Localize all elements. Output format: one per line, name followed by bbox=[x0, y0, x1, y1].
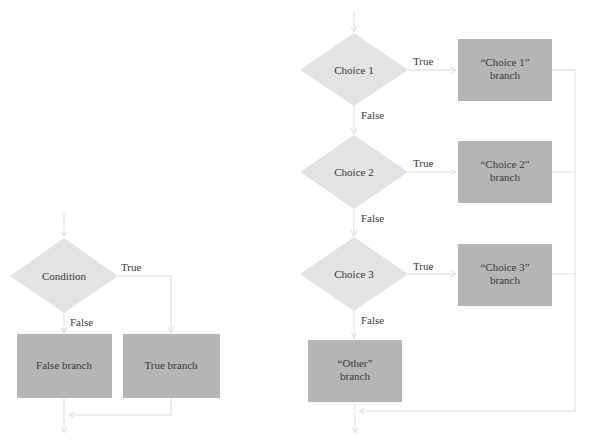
merge-connector bbox=[70, 398, 171, 415]
choice-1-false-label: False bbox=[361, 109, 384, 121]
choice-3-branch-line1: “Choice 3” bbox=[480, 261, 529, 273]
choice-1-true-label: True bbox=[413, 55, 433, 67]
multi-choice-diagram: Choice 1 True “Choice 1” branch False Ch… bbox=[300, 12, 575, 432]
choice-3-true-label: True bbox=[413, 260, 433, 272]
choice-1-label: Choice 1 bbox=[334, 64, 373, 76]
other-branch-line1: “Other” bbox=[338, 357, 373, 369]
true-label: True bbox=[121, 261, 141, 273]
false-label: False bbox=[70, 316, 93, 328]
choice-3-label: Choice 3 bbox=[334, 268, 374, 280]
if-else-diagram: Condition True False False branch True b… bbox=[10, 212, 220, 432]
choice-1-branch-line2: branch bbox=[490, 69, 520, 81]
choice-2-label: Choice 2 bbox=[334, 166, 373, 178]
false-branch-label: False branch bbox=[36, 359, 92, 371]
other-branch-line2: branch bbox=[340, 370, 370, 382]
choice-3-false-label: False bbox=[361, 314, 384, 326]
true-branch-label: True branch bbox=[144, 359, 198, 371]
condition-label: Condition bbox=[42, 270, 87, 282]
flowchart-canvas: Condition True False False branch True b… bbox=[0, 0, 590, 440]
choice-2-true-label: True bbox=[413, 157, 433, 169]
choice-3-branch-line2: branch bbox=[490, 274, 520, 286]
choice-2-branch-line1: “Choice 2” bbox=[480, 158, 529, 170]
true-connector bbox=[118, 276, 171, 332]
choice-2-false-label: False bbox=[361, 212, 384, 224]
choice-2-branch-line2: branch bbox=[490, 171, 520, 183]
choice-1-branch-line1: “Choice 1” bbox=[480, 56, 529, 68]
